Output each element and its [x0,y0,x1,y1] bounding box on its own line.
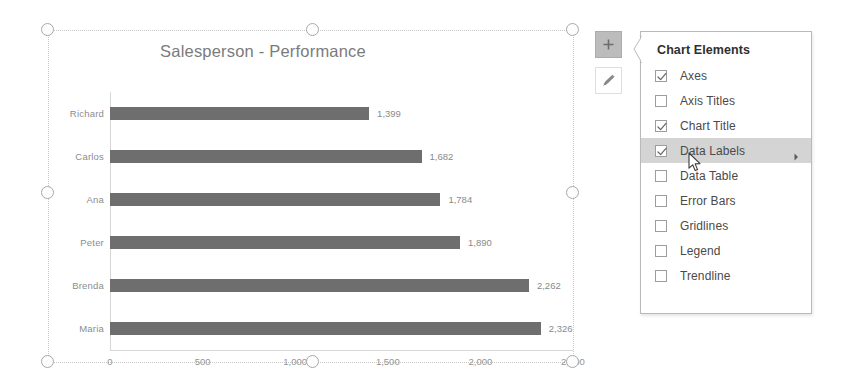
resize-handle-top-left[interactable] [41,23,54,36]
chart-element-item-gridlines[interactable]: Gridlines [641,213,811,238]
x-axis-tick-label: 1,500 [358,356,418,367]
bar[interactable] [110,150,422,163]
bar[interactable] [110,322,541,335]
chart-element-item-axes[interactable]: Axes [641,63,811,88]
chart-element-label: Chart Title [680,119,736,133]
chart-plot-area[interactable]: Salesperson - Performance RichardCarlosA… [48,30,573,362]
bars-container: 1,3991,6821,7841,8902,2622,32605001,0001… [110,92,573,350]
category-axis[interactable]: RichardCarlosAnaPeterBrendaMaria [48,92,104,350]
resize-handle-top-right[interactable] [566,23,579,36]
chart-element-label: Gridlines [680,219,728,233]
category-label: Carlos [34,151,104,162]
category-label: Brenda [34,280,104,291]
value-axis-line [110,92,111,350]
plus-icon [602,38,615,51]
checkbox-checked-icon[interactable] [655,145,667,157]
chart-element-item-data-table[interactable]: Data Table [641,163,811,188]
chart-elements-button[interactable] [595,31,622,58]
chart-object[interactable]: Salesperson - Performance RichardCarlosA… [48,30,573,362]
resize-handle-bottom-right[interactable] [566,355,579,368]
chart-element-label: Legend [680,244,721,258]
resize-handle-bottom-center[interactable] [306,355,319,368]
checkbox-icon[interactable] [655,220,667,232]
checkbox-icon[interactable] [655,245,667,257]
checkbox-checked-icon[interactable] [655,70,667,82]
bar[interactable] [110,279,529,292]
chart-element-item-trendline[interactable]: Trendline [641,263,811,288]
checkbox-icon[interactable] [655,170,667,182]
chart-element-item-legend[interactable]: Legend [641,238,811,263]
checkbox-icon[interactable] [655,195,667,207]
category-axis-line [110,350,573,351]
chart-quick-buttons [595,31,625,103]
resize-handle-bottom-left[interactable] [41,355,54,368]
bar[interactable] [110,193,440,206]
chart-elements-panel[interactable]: Chart Elements AxesAxis TitlesChart Titl… [640,31,812,314]
chart-elements-list: AxesAxis TitlesChart TitleData LabelsDat… [641,63,811,288]
chart-element-item-chart-title[interactable]: Chart Title [641,113,811,138]
chart-element-item-axis-titles[interactable]: Axis Titles [641,88,811,113]
data-label[interactable]: 1,784 [448,193,472,206]
bar[interactable] [110,107,369,120]
resize-handle-middle-left[interactable] [41,186,54,199]
chart-element-item-data-labels[interactable]: Data Labels [641,138,811,163]
category-label: Maria [34,323,104,334]
resize-handle-middle-right[interactable] [566,186,579,199]
chart-element-label: Data Table [680,169,738,183]
checkbox-icon[interactable] [655,95,667,107]
category-label: Richard [34,108,104,119]
chart-element-label: Axis Titles [680,94,735,108]
data-label[interactable]: 1,890 [468,236,492,249]
chart-element-label: Axes [680,69,707,83]
chart-element-label: Error Bars [680,194,736,208]
chart-element-label: Trendline [680,269,730,283]
data-label[interactable]: 1,399 [377,107,401,120]
checkbox-icon[interactable] [655,270,667,282]
x-axis-tick-label: 500 [173,356,233,367]
paintbrush-icon [601,73,616,88]
panel-title: Chart Elements [641,32,811,63]
category-label: Peter [34,237,104,248]
checkbox-checked-icon[interactable] [655,120,667,132]
x-axis-tick-label: 0 [80,356,140,367]
data-label[interactable]: 2,326 [549,322,573,335]
x-axis-tick-label: 2,000 [450,356,510,367]
chevron-right-icon[interactable] [794,147,799,165]
chart-element-item-error-bars[interactable]: Error Bars [641,188,811,213]
chart-styles-button[interactable] [595,67,622,94]
resize-handle-top-center[interactable] [306,23,319,36]
bar[interactable] [110,236,460,249]
chart-element-label: Data Labels [680,144,745,158]
data-label[interactable]: 1,682 [430,150,454,163]
callout-pointer [632,36,642,64]
chart-title[interactable]: Salesperson - Performance [48,42,478,61]
data-label[interactable]: 2,262 [537,279,561,292]
